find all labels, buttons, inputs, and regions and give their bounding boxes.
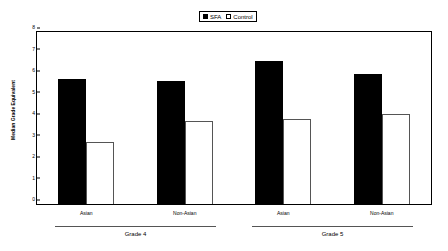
bar-control-3 [382,114,410,204]
legend-entry-control: Control [226,14,252,20]
filled-square-icon [203,14,208,19]
group-label: Grade 4 [125,231,147,237]
y-axis-tick: 5 [32,89,37,94]
y-axis-tick: 8 [32,25,37,30]
chart-legend: SFA Control [199,11,257,22]
bar-control-1 [185,121,213,204]
bar-sfa-2 [255,61,283,204]
bar-control-2 [283,119,311,204]
x-axis-category-label: Non-Asian [173,210,196,216]
y-axis-tick: 4 [32,111,37,116]
y-axis-title: Median Grade Equivalent [8,15,18,205]
y-axis-tick-mark [37,49,40,50]
y-axis-tick: 0 [32,197,37,202]
y-axis-tick: 7 [32,46,37,51]
legend-label-sfa: SFA [210,14,221,20]
y-axis-tick-mark [37,156,40,157]
group-rule [252,226,414,227]
y-axis-tick-mark [37,113,40,114]
y-axis-tick-mark [37,70,40,71]
chart-figure: SFA Control Median Grade Equivalent 0123… [0,0,448,251]
y-axis-tick-mark [37,135,40,136]
plot-area: 012345678 [36,31,432,205]
legend-entry-sfa: SFA [203,14,221,20]
x-axis-category-label: Asian [80,210,93,216]
y-axis-tick: 6 [32,68,37,73]
y-axis-tick-mark [37,27,40,28]
y-axis-tick: 1 [32,175,37,180]
y-axis-tick-mark [37,92,40,93]
bar-control-0 [86,142,114,204]
bar-sfa-1 [157,81,185,204]
y-axis-tick-mark [37,178,40,179]
y-axis-tick-mark [37,199,40,200]
bar-sfa-3 [354,74,382,204]
open-square-icon [226,14,231,19]
y-axis-tick: 3 [32,132,37,137]
group-label: Grade 5 [322,231,344,237]
y-axis-tick: 2 [32,154,37,159]
bar-sfa-0 [58,79,86,204]
legend-label-control: Control [233,14,252,20]
x-axis-category-label: Asian [277,210,290,216]
group-rule [55,226,217,227]
x-axis-category-label: Non-Asian [370,210,393,216]
